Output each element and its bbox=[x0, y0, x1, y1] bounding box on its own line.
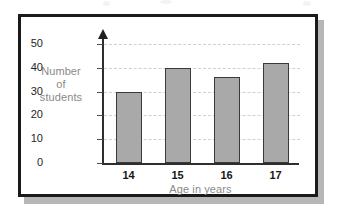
bar bbox=[263, 63, 289, 163]
y-axis-tick-label: 50 bbox=[17, 38, 43, 49]
screenshot-root: Number of students 01020304050 14151617 … bbox=[0, 0, 345, 211]
bar bbox=[214, 77, 240, 163]
x-axis-tick-label: 15 bbox=[158, 169, 198, 181]
y-axis-tick-label: 10 bbox=[17, 133, 43, 144]
y-axis-tick bbox=[97, 115, 103, 116]
y-axis-tick-label: 20 bbox=[17, 109, 43, 120]
y-axis-tick bbox=[97, 139, 103, 140]
scan-artifact bbox=[160, 0, 172, 4]
y-axis-tick bbox=[97, 163, 103, 164]
y-axis-tick bbox=[97, 44, 103, 45]
scan-artifact bbox=[303, 1, 311, 6]
y-axis-tick bbox=[97, 68, 103, 69]
gridline bbox=[104, 44, 300, 45]
y-axis-tick-label: 30 bbox=[17, 86, 43, 97]
bar bbox=[116, 92, 142, 163]
x-axis-tick-label: 17 bbox=[256, 169, 296, 181]
x-axis-title: Age in years bbox=[102, 183, 299, 195]
y-axis-tick bbox=[97, 92, 103, 93]
figure-frame: Number of students 01020304050 14151617 … bbox=[18, 14, 318, 197]
y-axis-tick-label: 0 bbox=[17, 157, 43, 168]
y-axis-arrow-icon bbox=[98, 29, 108, 39]
y-axis-line bbox=[102, 37, 104, 164]
x-axis-tick-label: 16 bbox=[207, 169, 247, 181]
x-axis-tick-label: 14 bbox=[109, 169, 149, 181]
x-axis-line bbox=[102, 163, 299, 165]
bar-chart: Number of students 01020304050 14151617 … bbox=[21, 17, 315, 194]
scan-artifact bbox=[103, 1, 110, 6]
bar bbox=[165, 68, 191, 163]
y-axis-tick-label: 40 bbox=[17, 62, 43, 73]
